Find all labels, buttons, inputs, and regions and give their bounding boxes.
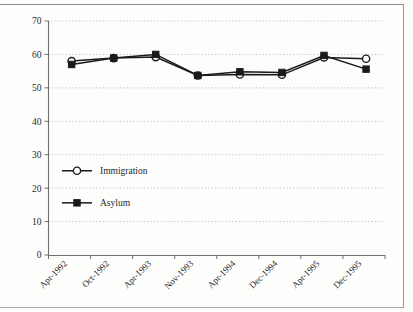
data-point-marker-asylum bbox=[68, 61, 74, 67]
data-point-marker-asylum bbox=[237, 69, 243, 75]
data-point-marker-immigration bbox=[362, 55, 369, 62]
x-tick-label: Nov-1993 bbox=[162, 258, 195, 291]
y-tick-label: 60 bbox=[32, 50, 42, 60]
legend-marker-filled-square-icon bbox=[74, 200, 80, 206]
data-point-marker-asylum bbox=[279, 69, 285, 75]
data-point-marker-asylum bbox=[195, 72, 201, 78]
y-tick-label: 70 bbox=[32, 16, 42, 26]
y-tick-label: 20 bbox=[32, 184, 42, 194]
y-tick-label: 50 bbox=[32, 83, 42, 93]
legend-marker-open-circle-icon bbox=[73, 167, 80, 174]
data-point-marker-asylum bbox=[363, 66, 369, 72]
data-point-marker-asylum bbox=[153, 51, 159, 57]
figure-container: 010203040506070 Apr-1992Oct-1992Apr-1993… bbox=[0, 0, 413, 312]
data-point-marker-asylum bbox=[321, 52, 327, 58]
x-tick-label: Apr-1993 bbox=[121, 258, 153, 290]
gridlines bbox=[49, 21, 386, 222]
legend-label: Asylum bbox=[100, 198, 131, 208]
x-tick-label: Dec-1995 bbox=[331, 258, 364, 291]
legend-label: Immigration bbox=[100, 166, 148, 176]
x-tick-label: Apr-1995 bbox=[290, 258, 322, 290]
data-point-marker-asylum bbox=[110, 55, 116, 61]
line-chart: 010203040506070 Apr-1992Oct-1992Apr-1993… bbox=[0, 0, 413, 312]
y-tick-label: 30 bbox=[32, 150, 42, 160]
y-tick-label: 0 bbox=[37, 250, 42, 260]
y-tick-labels: 010203040506070 bbox=[32, 16, 42, 260]
chart-legend: ImmigrationAsylum bbox=[62, 166, 148, 208]
x-tick-label: Oct-1992 bbox=[80, 258, 111, 289]
y-tick-marks bbox=[45, 21, 49, 255]
x-tick-label: Dec-1994 bbox=[247, 258, 280, 291]
y-tick-label: 40 bbox=[32, 117, 42, 127]
y-tick-label: 10 bbox=[32, 217, 42, 227]
x-tick-labels: Apr-1992Oct-1992Apr-1993Nov-1993Apr-1994… bbox=[37, 258, 363, 291]
x-tick-label: Apr-1994 bbox=[206, 258, 238, 290]
x-tick-label: Apr-1992 bbox=[37, 258, 69, 290]
